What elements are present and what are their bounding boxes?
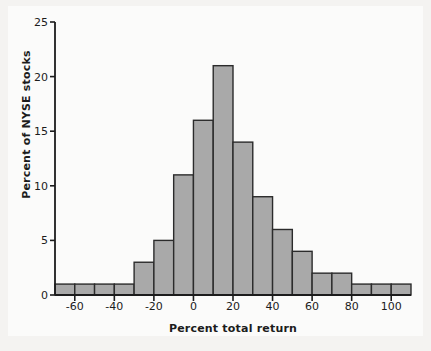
y-tick-label-text: 20 — [34, 70, 48, 83]
x-tick-label: 0 — [190, 300, 197, 313]
x-tick-label: 40 — [266, 300, 280, 313]
histogram-bar — [332, 273, 352, 295]
histogram-bar — [193, 120, 213, 295]
y-tick-label-text: 25 — [34, 16, 48, 29]
x-tick-label: 20 — [226, 300, 240, 313]
histogram-bar — [352, 284, 372, 295]
histogram-bar — [174, 175, 194, 295]
histogram-bar — [75, 284, 95, 295]
histogram-bar — [233, 142, 253, 295]
histogram-figure: Percent of NYSE stocks Percent total ret… — [0, 0, 431, 351]
histogram-bar — [391, 284, 411, 295]
histogram-bar — [253, 197, 273, 295]
x-tick-label: -60 — [66, 300, 84, 313]
y-tick-label-text: 5 — [41, 234, 48, 247]
histogram-bar — [134, 262, 154, 295]
y-tick-label-text: 15 — [34, 125, 48, 138]
histogram-bar — [312, 273, 332, 295]
x-tick-label: -40 — [105, 300, 123, 313]
histogram-bar — [273, 229, 293, 295]
y-tick-label-text: 0 — [41, 289, 48, 302]
y-tick-label-text: 10 — [34, 179, 48, 192]
histogram-bar — [114, 284, 134, 295]
plot-area — [0, 0, 431, 351]
histogram-bars — [55, 66, 411, 295]
histogram-bar — [371, 284, 391, 295]
x-tick-label: 80 — [345, 300, 359, 313]
histogram-bar — [55, 284, 75, 295]
histogram-bar — [154, 240, 174, 295]
histogram-bar — [95, 284, 115, 295]
x-tick-label: 100 — [381, 300, 402, 313]
x-tick-label: -20 — [145, 300, 163, 313]
histogram-bar — [213, 66, 233, 295]
histogram-svg — [0, 0, 431, 351]
histogram-bar — [292, 251, 312, 295]
x-tick-label: 60 — [305, 300, 319, 313]
